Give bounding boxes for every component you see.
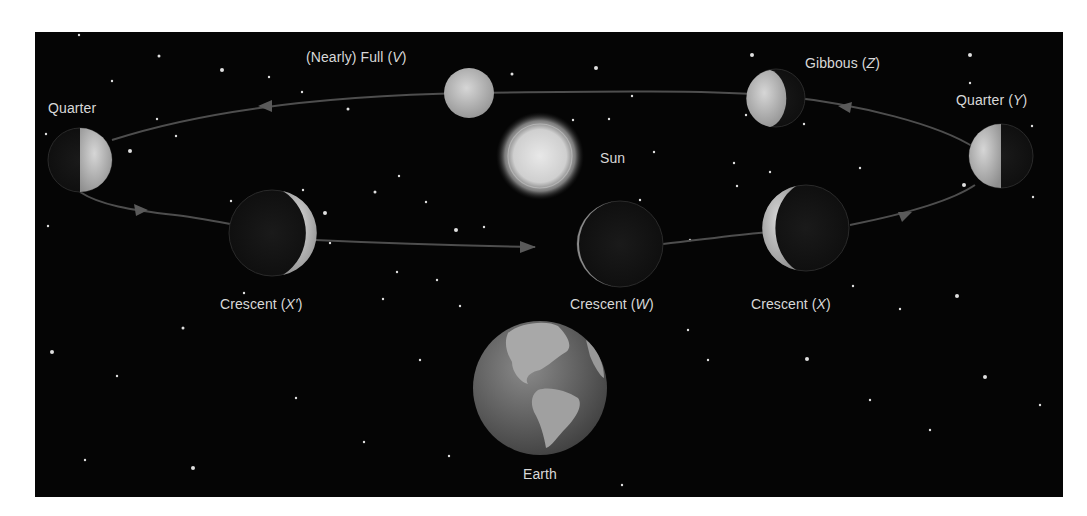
- label-quarter-y: Quarter (Y): [956, 92, 1027, 108]
- moon-gibbous-z: [746, 69, 805, 127]
- moon-quarter-y: [969, 124, 1033, 188]
- moon-phase-scene: [35, 32, 1063, 497]
- orbit-arrow-icon: [134, 204, 148, 216]
- label-full-v: (Nearly) Full (V): [306, 49, 407, 65]
- orbit-arrow-icon: [898, 212, 912, 222]
- moon-crescent-w: [577, 201, 663, 287]
- earth-globe-icon: [473, 321, 607, 455]
- orbit-arrow-icon: [258, 100, 272, 112]
- label-crescent-w: Crescent (W): [570, 296, 654, 312]
- orbit-arrow-icon: [520, 241, 536, 253]
- moon-crescent-xprime: [229, 190, 317, 276]
- moon-full-v: [444, 68, 494, 118]
- label-sun: Sun: [600, 150, 625, 166]
- label-gibbous-z: Gibbous (Z): [805, 55, 880, 71]
- diagram-panel: Quarter (Nearly) Full (V) Sun Gibbous (Z…: [35, 32, 1063, 497]
- label-crescent-xprime: Crescent (X′): [220, 296, 303, 312]
- label-crescent-x: Crescent (X): [751, 296, 831, 312]
- moon-crescent-x: [762, 185, 849, 271]
- label-earth: Earth: [523, 466, 557, 482]
- label-quarter-left: Quarter: [48, 100, 96, 116]
- moon-quarter-left: [48, 128, 112, 192]
- sun: [496, 112, 584, 200]
